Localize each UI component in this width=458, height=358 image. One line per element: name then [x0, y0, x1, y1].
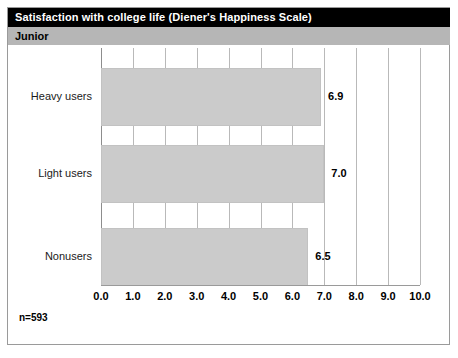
- bar-value-nonusers: 6.5: [315, 250, 330, 262]
- gridline-x-10.0: [420, 48, 421, 285]
- bar-value-heavy-users: 6.9: [328, 90, 343, 102]
- sample-size-label: n=593: [19, 312, 48, 323]
- category-label-nonusers: Nonusers: [14, 250, 92, 262]
- chart-figure: Satisfaction with college life (Diener's…: [0, 0, 458, 358]
- bar-value-light-users: 7.0: [331, 167, 346, 179]
- gridline-x-9.0: [388, 48, 389, 285]
- bar-heavy-users: [101, 68, 321, 126]
- category-label-light-users: Light users: [14, 167, 92, 179]
- chart-subtitle-bar: Junior: [8, 27, 450, 45]
- bar-nonusers: [101, 228, 308, 286]
- category-label-heavy-users: Heavy users: [14, 90, 92, 102]
- bar-light-users: [101, 145, 324, 203]
- plot-area: [101, 52, 420, 285]
- x-tick-label-10.0: 10.0: [400, 290, 440, 302]
- x-axis-baseline: [101, 285, 420, 286]
- gridline-x-8.0: [356, 48, 357, 285]
- chart-title-bar: Satisfaction with college life (Diener's…: [8, 8, 450, 27]
